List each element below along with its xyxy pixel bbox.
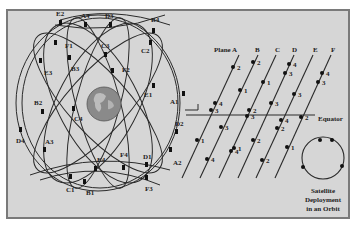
plane-a-label: Plane A bbox=[214, 46, 237, 54]
svg-text:D2: D2 bbox=[175, 120, 184, 128]
satellite-icon: C4 bbox=[72, 106, 83, 123]
svg-text:4: 4 bbox=[293, 61, 297, 69]
satellite-dot: 2 bbox=[231, 64, 241, 72]
satellite-icon: E1 bbox=[144, 83, 155, 99]
svg-text:B2: B2 bbox=[34, 99, 43, 107]
svg-text:F1: F1 bbox=[65, 42, 73, 50]
inset-caption-line3: in an Orbit bbox=[306, 205, 340, 213]
satellite-icon: C3 bbox=[101, 42, 110, 57]
svg-text:C3: C3 bbox=[101, 42, 110, 50]
svg-text:4: 4 bbox=[285, 117, 289, 125]
earth bbox=[87, 87, 121, 121]
plane-c-label: C bbox=[275, 46, 280, 54]
satellite-icon: C2 bbox=[141, 40, 152, 55]
orbit-inset: Satellite Deployment in an Orbit bbox=[301, 137, 344, 213]
svg-text:A1: A1 bbox=[170, 98, 179, 106]
satellite-icon: F2 bbox=[111, 66, 130, 74]
svg-text:2: 2 bbox=[266, 157, 270, 165]
svg-text:E4: E4 bbox=[97, 156, 106, 164]
svg-text:4: 4 bbox=[235, 148, 239, 156]
satellite-icon: A4 bbox=[81, 12, 90, 27]
svg-text:C2: C2 bbox=[141, 47, 150, 55]
satellite-icon: F1 bbox=[65, 42, 73, 60]
svg-text:C1: C1 bbox=[66, 186, 75, 194]
svg-text:D4: D4 bbox=[16, 137, 25, 145]
satellite-icon: A2 bbox=[169, 147, 182, 167]
svg-text:3: 3 bbox=[289, 70, 293, 78]
svg-text:2: 2 bbox=[281, 125, 285, 133]
svg-text:B3: B3 bbox=[71, 65, 80, 73]
constellation-diagram: E2 A4 D3 B4 F1 C3 C2 E3 B3 F2 E1 A1 B2 C… bbox=[0, 0, 356, 226]
svg-text:A2: A2 bbox=[173, 159, 182, 167]
svg-text:2: 2 bbox=[305, 114, 309, 122]
svg-text:2: 2 bbox=[257, 137, 261, 145]
svg-text:3: 3 bbox=[298, 91, 302, 99]
svg-text:D3: D3 bbox=[105, 12, 114, 20]
svg-text:A3: A3 bbox=[45, 138, 54, 146]
svg-text:F2: F2 bbox=[122, 66, 130, 74]
plane-d-label: D bbox=[292, 46, 297, 54]
svg-text:F3: F3 bbox=[145, 185, 153, 193]
svg-text:C4: C4 bbox=[74, 115, 83, 123]
svg-text:3: 3 bbox=[251, 113, 255, 121]
satellite-dot: 1 bbox=[261, 79, 271, 87]
plane-f-label: F bbox=[331, 46, 335, 54]
plane-e-label: E bbox=[313, 46, 318, 54]
svg-text:2: 2 bbox=[237, 64, 241, 72]
svg-text:3: 3 bbox=[215, 107, 219, 115]
satellite-icon: D2 bbox=[175, 120, 184, 134]
svg-text:B4: B4 bbox=[151, 16, 160, 24]
plane-b-label: B bbox=[255, 46, 260, 54]
inset-caption-line1: Satellite bbox=[311, 187, 335, 195]
svg-text:4: 4 bbox=[326, 70, 330, 78]
satellite-icon: A3 bbox=[43, 138, 54, 152]
inset-caption-line2: Deployment bbox=[305, 196, 342, 204]
svg-text:1: 1 bbox=[267, 79, 271, 87]
svg-text:3: 3 bbox=[225, 124, 229, 132]
svg-text:E1: E1 bbox=[144, 91, 153, 99]
svg-text:1: 1 bbox=[201, 137, 205, 145]
satellite-icon: F4 bbox=[120, 151, 128, 170]
svg-text:4: 4 bbox=[211, 156, 215, 164]
svg-text:E2: E2 bbox=[56, 10, 65, 18]
svg-text:1: 1 bbox=[291, 144, 295, 152]
svg-text:3: 3 bbox=[275, 100, 279, 108]
svg-text:B1: B1 bbox=[86, 189, 95, 197]
svg-text:1: 1 bbox=[238, 145, 242, 153]
orbital-planes: Equator Plane A B C D E F 2 4 3 1 4 2 1 … bbox=[182, 46, 343, 178]
svg-text:A4: A4 bbox=[81, 12, 90, 20]
satellite-icon: B2 bbox=[34, 99, 44, 114]
svg-text:4: 4 bbox=[219, 100, 223, 108]
satellite-icon: F3 bbox=[145, 175, 153, 193]
satellite-icon: B4 bbox=[151, 16, 160, 33]
svg-text:2: 2 bbox=[257, 59, 261, 67]
svg-text:F4: F4 bbox=[120, 151, 128, 159]
satellite-icon: D4 bbox=[16, 127, 25, 145]
equator-label: Equator bbox=[318, 115, 343, 123]
satellite-icon: D3 bbox=[105, 12, 114, 27]
svg-text:E3: E3 bbox=[44, 69, 53, 77]
svg-text:1: 1 bbox=[244, 87, 248, 95]
svg-text:3: 3 bbox=[322, 79, 326, 87]
svg-text:D1: D1 bbox=[143, 153, 152, 161]
